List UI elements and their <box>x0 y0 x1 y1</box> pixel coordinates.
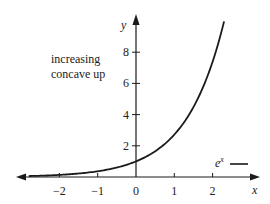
legend: ex <box>215 155 248 170</box>
x-axis-left-arrow-icon <box>16 174 26 181</box>
chart: −2−1012 x 2468 y increasing concave up e… <box>0 0 270 204</box>
y-tick-label: 6 <box>123 76 129 90</box>
annotation-line-2: concave up <box>51 67 105 81</box>
y-tick-label: 4 <box>123 108 129 122</box>
y-tick-label: 2 <box>123 139 129 153</box>
y-axis: 2468 y <box>120 14 140 177</box>
x-tick-label: −1 <box>91 184 104 198</box>
y-tick-label: 8 <box>123 45 129 59</box>
legend-label: ex <box>215 155 224 170</box>
annotation-line-1: increasing <box>51 52 100 66</box>
annotation: increasing concave up <box>51 52 105 81</box>
x-tick-label: 2 <box>210 184 216 198</box>
x-tick-label: 1 <box>171 184 177 198</box>
y-axis-arrow-icon <box>133 14 140 25</box>
x-axis: −2−1012 x <box>16 173 260 198</box>
x-tick-label: 0 <box>133 184 139 198</box>
x-axis-right-arrow-icon <box>250 174 260 181</box>
y-axis-label: y <box>120 18 127 32</box>
x-tick-label: −2 <box>53 184 66 198</box>
x-axis-label: x <box>251 183 258 197</box>
